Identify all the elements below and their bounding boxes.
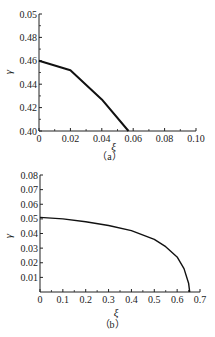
x-tick-label: 0 bbox=[37, 133, 42, 144]
y-tick-label: 0.04 bbox=[21, 228, 39, 239]
y-tick-label: 0.03 bbox=[21, 243, 39, 254]
x-tick-label: 0.06 bbox=[124, 133, 142, 144]
y-tick-label: 0.01 bbox=[21, 272, 39, 283]
x-tick-label: 0.7 bbox=[194, 294, 207, 305]
panel-caption: （b） bbox=[100, 319, 125, 330]
y-tick-label: 0.46 bbox=[20, 55, 38, 66]
x-axis-label: ξ bbox=[114, 306, 119, 319]
x-tick-label: 0.10 bbox=[187, 133, 205, 144]
chart-panel-b: 00.10.20.30.40.50.60.70.010.020.030.040.… bbox=[2, 170, 206, 331]
x-tick-label: 0.4 bbox=[125, 294, 138, 305]
y-tick-label: 0.44 bbox=[20, 79, 38, 90]
x-tick-label: 0.02 bbox=[62, 133, 80, 144]
data-line bbox=[40, 217, 190, 292]
y-tick-label: 0.05 bbox=[21, 213, 39, 224]
y-tick-label: 0.40 bbox=[20, 126, 38, 137]
x-tick-label: 0.2 bbox=[79, 294, 92, 305]
y-tick-label: 0.08 bbox=[21, 170, 39, 181]
x-tick-label: 0 bbox=[38, 294, 43, 305]
panel-caption: （a） bbox=[97, 151, 121, 162]
y-tick-label: 0.42 bbox=[20, 102, 38, 113]
y-tick-label: 0.05 bbox=[20, 9, 38, 20]
y-tick-label: 0.06 bbox=[21, 199, 39, 210]
y-tick-label: 0.07 bbox=[21, 184, 39, 195]
y-tick-label: 0.02 bbox=[21, 257, 39, 268]
y-axis-label: γ bbox=[2, 233, 14, 238]
x-tick-label: 0.1 bbox=[57, 294, 70, 305]
x-tick-label: 0.5 bbox=[148, 294, 161, 305]
y-tick-label: 0.48 bbox=[20, 32, 38, 43]
x-tick-label: 0.08 bbox=[156, 133, 174, 144]
x-tick-label: 0.3 bbox=[102, 294, 115, 305]
chart-panel-a: 00.020.040.060.080.100.400.420.440.460.4… bbox=[2, 9, 205, 163]
y-axis-label: γ bbox=[2, 69, 14, 74]
x-tick-label: 0.04 bbox=[93, 133, 111, 144]
x-tick-label: 0.6 bbox=[171, 294, 184, 305]
figure: 00.020.040.060.080.100.400.420.440.460.4… bbox=[0, 0, 215, 337]
data-line bbox=[39, 61, 129, 131]
